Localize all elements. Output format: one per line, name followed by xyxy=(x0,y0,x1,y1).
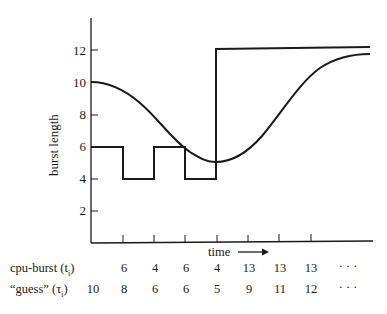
cpu-burst-cell: 13 xyxy=(268,261,292,276)
guess-cell: 9 xyxy=(237,282,261,297)
ellipsis-icon: · · · xyxy=(333,259,363,274)
cpu-burst-cell: 13 xyxy=(299,261,323,276)
x-axis xyxy=(91,241,373,243)
y-tick-12: 12 xyxy=(73,43,86,58)
cpu-burst-row-label: cpu-burst (ti) xyxy=(10,261,74,278)
ellipsis-icon: · · · xyxy=(333,280,363,295)
y-tick-4: 4 xyxy=(80,171,87,186)
guess-row-label: “guess” (τi) xyxy=(10,282,68,299)
cpu-burst-cell: 6 xyxy=(174,261,198,276)
y-tick-2: 2 xyxy=(80,203,87,218)
y-tick-10: 10 xyxy=(73,75,86,90)
y-ticks xyxy=(91,50,98,211)
x-axis-label: time xyxy=(208,245,230,260)
guess-cell: 10 xyxy=(81,282,105,297)
y-tick-labels: 12 10 8 6 4 2 xyxy=(73,43,87,218)
guess-cell: 6 xyxy=(174,282,198,297)
y-tick-6: 6 xyxy=(80,139,87,154)
guess-cell: 6 xyxy=(143,282,167,297)
y-axis-label: burst length xyxy=(46,114,62,176)
y-tick-8: 8 xyxy=(80,107,87,122)
x-ticks xyxy=(123,234,311,242)
cpu-burst-cell: 13 xyxy=(237,261,261,276)
cpu-burst-cell: 6 xyxy=(112,261,136,276)
cpu-burst-cell: 4 xyxy=(143,261,167,276)
guess-curve xyxy=(91,54,370,162)
guess-cell: 12 xyxy=(299,282,323,297)
right-arrow-icon xyxy=(238,249,269,256)
guess-cell: 5 xyxy=(205,282,229,297)
guess-cell: 8 xyxy=(112,282,136,297)
cpu-burst-cell: 4 xyxy=(205,261,229,276)
guess-cell: 11 xyxy=(268,282,292,297)
